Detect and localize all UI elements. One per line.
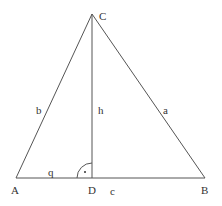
right-angle-dot-icon bbox=[84, 171, 86, 173]
side-a-line bbox=[92, 14, 205, 178]
vertex-label-c: C bbox=[99, 10, 106, 22]
right-angle-arc-icon bbox=[77, 163, 92, 178]
vertex-label-d: D bbox=[88, 184, 96, 196]
side-label-b: b bbox=[36, 104, 42, 116]
side-label-h: h bbox=[98, 104, 104, 116]
segment-label-q: q bbox=[48, 166, 54, 178]
triangle-diagram: C A D B b h a q c bbox=[0, 0, 222, 206]
side-label-c: c bbox=[110, 185, 115, 197]
vertex-label-b: B bbox=[201, 184, 208, 196]
side-label-a: a bbox=[163, 104, 168, 116]
side-b-line bbox=[16, 14, 92, 178]
vertex-label-a: A bbox=[11, 184, 19, 196]
